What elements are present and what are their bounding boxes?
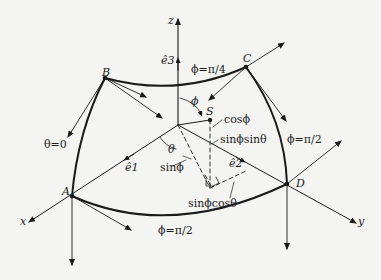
theta-angle-label: θ — [168, 144, 175, 155]
theta-zero-label: θ=0 — [44, 139, 67, 150]
e3-label: ê3 — [161, 55, 175, 66]
e1-arrow — [126, 154, 134, 159]
sin-phi-sin-theta-label: sinϕsinθ — [220, 134, 267, 145]
phi-angle-label: ϕ — [191, 96, 199, 107]
point-D — [285, 182, 290, 187]
curve-A-D — [72, 184, 287, 215]
y-axis-label: y — [358, 216, 364, 227]
curve-C-D — [246, 67, 287, 184]
z-axis-label: z — [168, 15, 174, 26]
point-D-label: D — [296, 178, 305, 189]
e1-label: ê1 — [125, 162, 139, 173]
phi-pi4-label: ϕ=π/4 — [191, 64, 226, 75]
phi-pi2-bottom-label: ϕ=π/2 — [158, 225, 193, 236]
point-A — [70, 194, 75, 199]
radius-OS — [178, 120, 210, 125]
point-A-label: A — [62, 186, 70, 197]
point-B-label: B — [102, 67, 110, 78]
sin-phi-cos-theta-label: sinϕcosθ — [188, 198, 237, 209]
x-axis-label: x — [20, 216, 26, 227]
point-S — [208, 118, 212, 122]
cos-phi-label: cosϕ — [224, 114, 250, 125]
point-C-label: C — [243, 53, 251, 64]
point-S-label: S — [206, 106, 214, 117]
e2-label: ê2 — [229, 158, 243, 169]
phi-pi2-right-label: ϕ=π/2 — [287, 134, 322, 145]
diagram-canvas: z ê3 B C ϕ=π/4 ϕ S cosϕ sinϕsinθ ϕ=π/2 θ… — [0, 0, 381, 280]
curve-theta-0 — [72, 78, 105, 196]
sin-phi-label: sinϕ — [160, 162, 184, 173]
point-C — [244, 65, 249, 70]
